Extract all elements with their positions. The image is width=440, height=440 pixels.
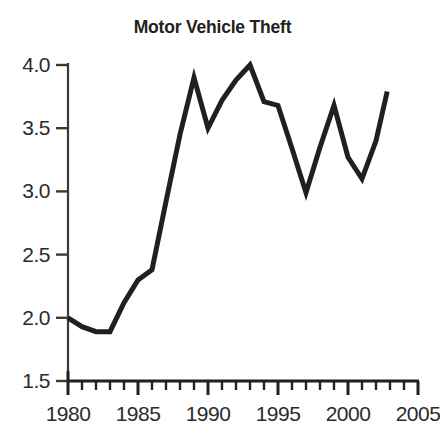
data-series-line — [68, 65, 387, 332]
x-axis-tick-label: 1995 — [256, 402, 301, 426]
y-axis-ticks — [56, 65, 68, 381]
y-axis-tick-label: 1.5 — [0, 369, 50, 393]
chart-axes — [68, 63, 419, 381]
x-axis-tick-label: 2005 — [396, 402, 440, 426]
x-axis-ticks — [68, 371, 418, 395]
x-axis-tick-label: 2000 — [326, 402, 371, 426]
y-axis-tick-label: 2.0 — [0, 306, 50, 330]
y-axis-tick-label: 4.0 — [0, 53, 50, 77]
x-axis-tick-label: 1980 — [46, 402, 91, 426]
y-axis-tick-label: 3.5 — [0, 116, 50, 140]
x-axis-tick-label: 1990 — [186, 402, 231, 426]
x-axis-tick-label: 1985 — [116, 402, 161, 426]
y-axis-tick-label: 2.5 — [0, 243, 50, 267]
y-axis-tick-label: 3.0 — [0, 179, 50, 203]
